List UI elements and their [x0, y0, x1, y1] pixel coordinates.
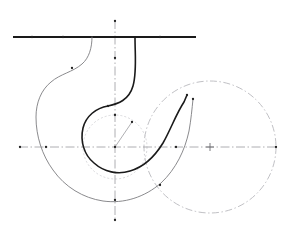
thin-curve-endpoint [192, 98, 194, 100]
tangent-line-node-left [31, 36, 33, 38]
axes-group [19, 20, 277, 221]
axis-left-node [45, 146, 47, 148]
axis-right-node [175, 146, 177, 148]
vertical-axis-lower-node [114, 199, 116, 201]
thin-curve-inflection [71, 67, 73, 69]
point-markers-group [19, 20, 277, 221]
origin-point [114, 146, 116, 148]
cross-markers-group [206, 143, 214, 151]
thin-curve-lower-node [159, 184, 161, 186]
axis-right-end-node [275, 146, 277, 148]
bold-involute-curve [82, 37, 187, 173]
involute-diagram [0, 0, 287, 236]
base-circle-top-node [114, 114, 116, 116]
axis-left-end-node [19, 146, 21, 148]
vertical-axis-mid-node [114, 57, 116, 59]
tangent-line-node-right [159, 36, 161, 38]
bold-curve-inflection [107, 105, 109, 107]
vertical-axis-bottom-node [114, 219, 116, 221]
vector-tip [131, 121, 133, 123]
origin-vector-group [115, 122, 132, 147]
thin-involute-curve [36, 37, 193, 202]
right-circle-center-cross [206, 143, 214, 151]
tangent-line-node-mid [62, 36, 64, 38]
origin-vector-arrow [115, 122, 132, 147]
diagram-canvas [0, 0, 287, 236]
vertical-axis-top-node [114, 20, 116, 22]
curves-group [36, 37, 193, 202]
bold-curve-endpoint [186, 94, 188, 96]
